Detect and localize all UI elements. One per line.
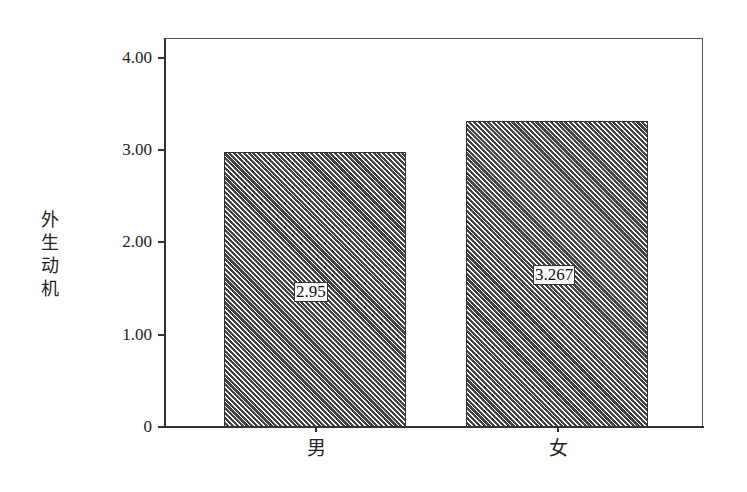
y-tick bbox=[158, 426, 164, 428]
y-tick bbox=[158, 334, 164, 336]
x-tick bbox=[315, 426, 317, 432]
y-tick-label: 1.00 bbox=[122, 326, 152, 343]
y-tick-label: 2.00 bbox=[122, 233, 152, 250]
x-tick-label: 女 bbox=[538, 433, 578, 460]
y-tick bbox=[158, 149, 164, 151]
y-tick bbox=[158, 57, 164, 59]
y-tick-label: 0 bbox=[144, 418, 153, 435]
bar-value-label: 2.95 bbox=[294, 282, 328, 302]
y-tick bbox=[158, 241, 164, 243]
y-tick-label: 4.00 bbox=[122, 49, 152, 66]
y-axis bbox=[164, 38, 166, 427]
x-tick-label: 男 bbox=[296, 433, 336, 460]
y-axis-title: 外生动机 bbox=[40, 208, 60, 300]
x-tick bbox=[557, 426, 559, 432]
bar-value-label: 3.267 bbox=[533, 265, 575, 285]
y-tick-label: 3.00 bbox=[122, 141, 152, 158]
